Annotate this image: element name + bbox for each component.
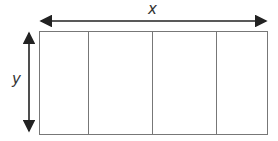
height-label: y [12, 70, 21, 88]
outer-rectangle [40, 32, 268, 135]
diagram-canvas [0, 0, 278, 141]
width-label: x [148, 0, 157, 18]
